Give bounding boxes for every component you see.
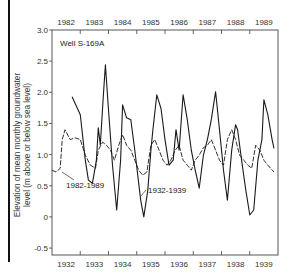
groundwater-chart: 3.02.52.01.51.00.50-0.519821983198419851… [0,0,294,279]
y-tick-label: 2.0 [37,88,49,97]
y-tick-label: 0.5 [37,182,49,191]
y-axis-label: Elevation of mean monthly groundwater le… [13,73,32,218]
y-tick-label: 0 [44,213,49,222]
y-tick-label: 1.5 [37,119,49,128]
top-x-tick-label: 1987 [198,18,216,27]
y-tick-label: 3.0 [37,26,49,35]
annotation-1932-1939: 1932-1939 [148,186,187,195]
bottom-x-tick-label: 1934 [114,260,132,269]
top-x-tick-label: 1986 [170,18,188,27]
bottom-x-tick-label: 1933 [85,260,103,269]
y-axis-label-line2: level (m above or below sea level) [23,83,32,207]
annotation-leader-1982 [62,172,74,180]
y-axis-label-line1: Elevation of mean monthly groundwater [13,73,22,218]
top-x-tick-label: 1985 [142,18,160,27]
top-x-tick-label: 1982 [57,18,75,27]
top-x-tick-label: 1988 [227,18,245,27]
bottom-x-tick-label: 1936 [170,260,188,269]
top-x-tick-label: 1984 [114,18,132,27]
bottom-x-tick-label: 1937 [198,260,216,269]
y-tick-label: 2.5 [37,57,49,66]
y-tick-label: 1.0 [37,151,49,160]
bottom-x-tick-label: 1935 [142,260,160,269]
y-tick-label: -0.5 [34,244,48,253]
annotation-leader-1932 [141,190,146,196]
bottom-x-tick-label: 1938 [227,260,245,269]
bottom-x-tick-label: 1932 [57,260,75,269]
chart-title: Well S-169A [60,39,105,48]
top-x-tick-label: 1989 [255,18,273,27]
bottom-x-tick-label: 1939 [255,260,273,269]
top-x-tick-label: 1983 [85,18,103,27]
annotation-1982-1989: 1982-1989 [66,181,105,190]
